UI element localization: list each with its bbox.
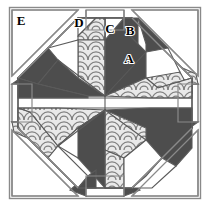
label-C: C — [105, 21, 114, 36]
label-D: D — [74, 15, 83, 30]
quilt-block-svg: A B C D E — [0, 0, 210, 206]
label-E: E — [17, 13, 26, 28]
label-B: B — [126, 23, 135, 38]
label-A: A — [124, 51, 134, 66]
quilt-block-diagram: A B C D E — [0, 0, 210, 206]
